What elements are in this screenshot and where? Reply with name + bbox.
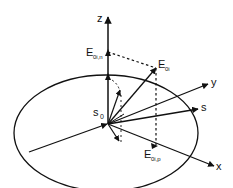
e-0i-vector	[108, 68, 156, 124]
s-vector	[108, 109, 198, 124]
small-vector-up	[108, 90, 120, 124]
s-label: s	[201, 101, 207, 113]
z-label: z	[97, 12, 103, 24]
e-n-subscript: 0i,n	[93, 54, 103, 60]
e-0i-subscript: 0i	[165, 66, 170, 72]
s0-incoming-vector	[29, 124, 107, 152]
z-inner-arrowhead	[105, 73, 111, 80]
x-label: x	[216, 160, 222, 172]
dashed-projection-n	[108, 52, 156, 68]
e-p-subscript: 0i,p	[151, 156, 161, 162]
dashed-arc	[108, 78, 120, 92]
s0-label: s	[93, 106, 99, 118]
s0-subscript: 0	[100, 113, 104, 120]
y-label: y	[211, 76, 217, 88]
field-decomposition-diagram: z y s x s 0 E 0i,n E 0i E 0i,p	[0, 0, 233, 188]
boundary-ellipse	[14, 75, 198, 188]
y-axis	[108, 84, 208, 124]
